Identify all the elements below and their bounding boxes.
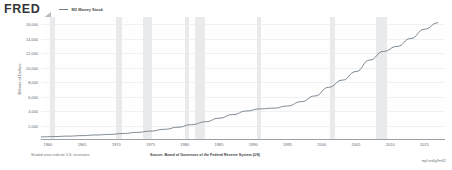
chart-header: FRED M3 Money Stock [0, 0, 452, 18]
plot-area [41, 17, 445, 140]
fred-logo[interactable]: FRED [4, 3, 40, 16]
x-axis-tick-label: 2010 [386, 142, 395, 147]
x-axis-tick-label: 1995 [283, 142, 292, 147]
y-axis-tick-label: 4,000 [0, 109, 38, 114]
x-axis-tick-label: 1970 [112, 142, 121, 147]
x-axis-tick-label: 2015 [420, 142, 429, 147]
x-axis-ticks: 1960196519701975198019851990199520002005… [41, 142, 445, 150]
chart-legend[interactable]: M3 Money Stock [59, 7, 103, 12]
x-axis-tick-label: 1960 [43, 142, 52, 147]
legend-label-m3: M3 Money Stock [71, 7, 103, 12]
fred-swoosh-icon [42, 6, 52, 15]
y-axis-tick-label: 6,000 [0, 94, 38, 99]
y-axis-tick-label: 14,000 [0, 36, 38, 41]
x-axis-tick-label: 1975 [146, 142, 155, 147]
chart-url[interactable]: myf.red/g/fmS2 [422, 159, 446, 163]
y-axis-tick-label: 12,000 [0, 51, 38, 56]
legend-line-swatch [59, 9, 68, 10]
x-axis-tick-label: 2000 [317, 142, 326, 147]
chart-footer: Shaded areas indicate U.S. recessions So… [0, 152, 452, 170]
x-axis-tick-label: 1965 [78, 142, 87, 147]
plot-wrapper [41, 17, 445, 140]
x-axis-tick-label: 1980 [180, 142, 189, 147]
y-axis-tick-label: 10,000 [0, 65, 38, 70]
y-axis-tick-label: 16,000 [0, 22, 38, 27]
x-axis-tick-label: 1985 [215, 142, 224, 147]
recession-note: Shaded areas indicate U.S. recessions [31, 153, 89, 157]
y-axis-tick-label: 2,000 [0, 123, 38, 128]
fred-chart-widget: FRED M3 Money Stock Billions of Dollars … [0, 0, 452, 170]
source-note: Source: Board of Governors of the Federa… [150, 153, 260, 157]
y-axis-tick-label: 8,000 [0, 80, 38, 85]
x-axis-tick-label: 2005 [352, 142, 361, 147]
series-line-m3-money-stock [41, 17, 445, 139]
x-axis-tick-label: 1990 [249, 142, 258, 147]
